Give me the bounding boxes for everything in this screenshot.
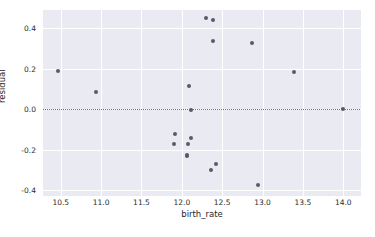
y-tick-label: -0.4 [21,185,36,194]
data-point [189,136,193,140]
x-tick-label: 12.5 [214,198,231,207]
data-point [211,18,215,22]
data-point [204,16,208,20]
data-point [214,162,218,166]
gridline-y--0.2 [43,150,361,151]
x-tick-label: 11.0 [93,198,110,207]
data-point [56,69,60,73]
gridline-x-11.5 [141,10,142,196]
y-tick-label: 0.2 [24,64,36,73]
x-tick-label: 13.0 [254,198,271,207]
data-point [172,142,176,146]
y-tick-label: 0.4 [24,24,36,33]
gridline-x-14.0 [343,10,344,196]
y-tick-label: -0.2 [21,145,36,154]
gridline-x-12.0 [182,10,183,196]
data-point [94,90,98,94]
data-point [341,107,345,111]
data-point [292,70,296,74]
zero-reference-line [43,109,361,110]
x-axis-label: birth_rate [43,209,361,219]
x-tick-label: 13.5 [295,198,312,207]
gridline-y--0.4 [43,190,361,191]
data-point [186,142,190,146]
y-axis-label-wrapper: residual [0,0,20,206]
data-point [209,168,213,172]
y-axis-label: residual [0,69,7,103]
gridline-x-13.5 [303,10,304,196]
residual-scatter-figure: 10.511.011.512.012.513.013.514.0 0.40.20… [0,0,375,237]
x-tick-label: 12.0 [173,198,190,207]
data-point [189,108,193,112]
data-point [250,41,254,45]
plot-area [43,10,361,196]
data-point [173,132,177,136]
data-point [187,84,191,88]
x-tick-label: 11.5 [133,198,150,207]
gridline-x-12.5 [222,10,223,196]
gridline-x-13.0 [263,10,264,196]
gridline-y-0.4 [43,28,361,29]
data-point [256,183,260,187]
gridline-y-0.2 [43,69,361,70]
x-tick-label: 14.0 [335,198,352,207]
gridline-x-10.5 [61,10,62,196]
data-point [185,154,189,158]
x-tick-label: 10.5 [52,198,69,207]
data-point [211,39,215,43]
gridline-x-11.0 [101,10,102,196]
y-tick-label: 0.0 [24,105,36,114]
